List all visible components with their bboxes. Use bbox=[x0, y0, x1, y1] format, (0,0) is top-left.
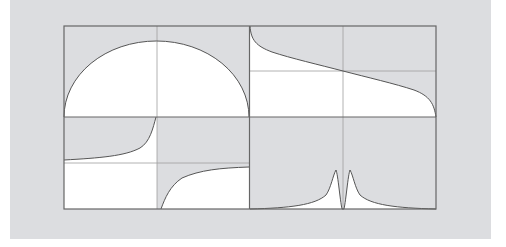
figure-canvas bbox=[0, 0, 506, 247]
